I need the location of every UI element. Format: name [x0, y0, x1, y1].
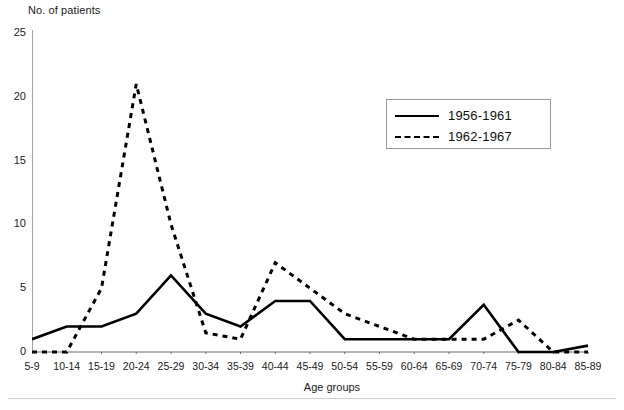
x-axis-title: Age groups [0, 381, 624, 393]
y-tick-label: 25 [2, 26, 26, 38]
legend-label-1: 1962-1967 [448, 129, 512, 144]
x-axis-title-text: Age groups [304, 381, 360, 393]
y-axis-title: No. of patients [28, 4, 100, 16]
y-tick-label: 10 [2, 217, 26, 229]
legend-line-solid-icon [395, 110, 439, 122]
chart-legend: 1956-1961 1962-1967 [386, 99, 551, 149]
caption-divider [8, 398, 616, 399]
x-tick-label: 85-89 [563, 360, 613, 372]
figure-caption [10, 400, 624, 410]
y-tick-label: 15 [2, 154, 26, 166]
y-tick-label: 0 [2, 345, 26, 357]
legend-item-0: 1956-1961 [395, 105, 542, 126]
legend-item-1: 1962-1967 [395, 126, 542, 147]
y-tick-label: 5 [2, 281, 26, 293]
y-tick-label: 20 [2, 90, 26, 102]
chart-svg [32, 30, 594, 354]
legend-line-dashed-icon [395, 131, 439, 143]
legend-label-0: 1956-1961 [448, 108, 512, 123]
plot-area [32, 30, 594, 354]
chart-figure: No. of patients 0510152025 5-910-1415-19… [0, 0, 624, 410]
